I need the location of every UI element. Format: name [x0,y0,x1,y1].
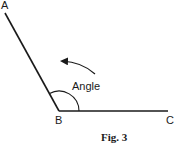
rotation-arrow-icon [62,61,95,74]
figure-caption: Fig. 3 [101,132,127,143]
angle-label: Angle [72,81,100,92]
angle-diagram [0,0,175,143]
point-label-a: A [1,0,8,11]
point-label-c: C [166,115,174,126]
ray-ba [5,13,59,111]
point-label-b: B [55,115,62,126]
